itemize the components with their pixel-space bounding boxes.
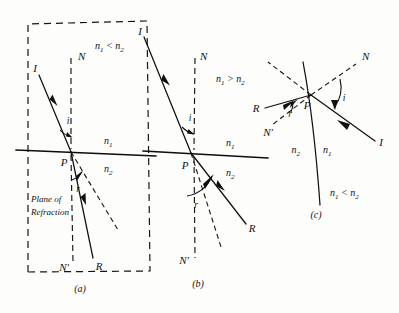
panel-b-normal-above-line: [194, 58, 195, 150]
panel-c-angle-i-label: i: [343, 93, 346, 103]
panel-c-angle-i-arrow: [331, 100, 338, 110]
panel-c-normal-label: N: [361, 50, 370, 62]
panel-b-refracted-ray-label: R: [248, 222, 256, 234]
panel-b-angle-r-label: r: [194, 200, 198, 210]
refraction-figure-canvas: I N N' P R i r n1 n2 n1 < n2 Plane of Re…: [0, 0, 399, 313]
panel-a-refracted-ray-label: R: [95, 260, 103, 272]
panel-c: I N N' P R i r n2 n1 n1 < n2 (c): [252, 50, 385, 221]
panel-b-normal-prime-label: N': [178, 254, 189, 266]
panel-b-refracted-ray-arrow: [216, 180, 225, 191]
panel-a-lower-medium-label: n2: [104, 163, 113, 177]
panel-b-angle-i-label: i: [189, 113, 192, 123]
panel-c-refracted-ray-label: R: [252, 102, 260, 114]
panel-c-index-relation-label: n1 < n2: [330, 187, 359, 201]
panel-b-incident-ray-label: I: [137, 25, 143, 37]
panel-b: I N N' P R i r n1 n2 n1 > n2 (b): [137, 25, 268, 290]
panel-b-refracted-ray: [191, 153, 246, 224]
panel-a-plane-of-refraction-box: [28, 21, 150, 272]
panel-a-angle-r-label: r: [76, 184, 80, 194]
panel-a-normal-below-line: [71, 155, 73, 262]
panel-a-caption: (a): [74, 283, 86, 295]
panel-a-plane-annotation-line1: Plane of: [30, 194, 63, 204]
panel-a-incident-ray-label: I: [32, 62, 38, 74]
panel-b-normal-label: N: [199, 50, 208, 62]
panel-b-point-label: P: [181, 159, 189, 171]
panel-a-normal-prime-label: N': [58, 261, 69, 273]
panel-a-normal-label: N: [77, 50, 86, 62]
panel-b-angle-i-arrow: [187, 129, 195, 135]
panel-a-index-relation-label: n1 < n2: [95, 40, 124, 54]
refraction-figure: I N N' P R i r n1 n2 n1 < n2 Plane of Re…: [0, 0, 399, 313]
panel-a: I N N' P R i r n1 n2 n1 < n2 Plane of Re…: [16, 21, 156, 295]
panel-c-angle-r-label: r: [288, 109, 292, 119]
panel-c-interface-line: [303, 62, 320, 205]
panel-b-upper-medium-label: n1: [226, 137, 235, 151]
panel-a-angle-i-label: i: [67, 116, 70, 126]
panel-a-point-label: P: [60, 156, 68, 168]
panel-c-normal-prime-label: N': [262, 126, 273, 138]
panel-c-lower-medium-label: n1: [323, 144, 332, 158]
panel-c-upper-medium-label: n2: [292, 144, 301, 158]
panel-a-angle-r-arrow: [76, 171, 83, 182]
panel-c-incident-ray-label: I: [378, 136, 384, 148]
panel-b-interface-line: [143, 151, 268, 158]
panel-a-incident-ray: [39, 75, 71, 152]
panel-b-incident-ray: [144, 37, 191, 153]
panel-b-index-relation-label: n1 > n2: [216, 73, 245, 87]
panel-a-refracted-ray: [71, 152, 93, 258]
panel-a-plane-annotation-line2: Refraction: [30, 207, 69, 217]
panel-c-caption: (c): [310, 209, 322, 221]
panel-b-lower-medium-label: n2: [226, 167, 235, 181]
panel-c-normal-above-line: [311, 64, 356, 95]
panel-a-upper-medium-label: n1: [104, 135, 113, 149]
panel-a-interface-line: [16, 150, 156, 156]
panel-b-caption: (b): [192, 278, 204, 290]
panel-c-point-label: P: [303, 99, 311, 111]
